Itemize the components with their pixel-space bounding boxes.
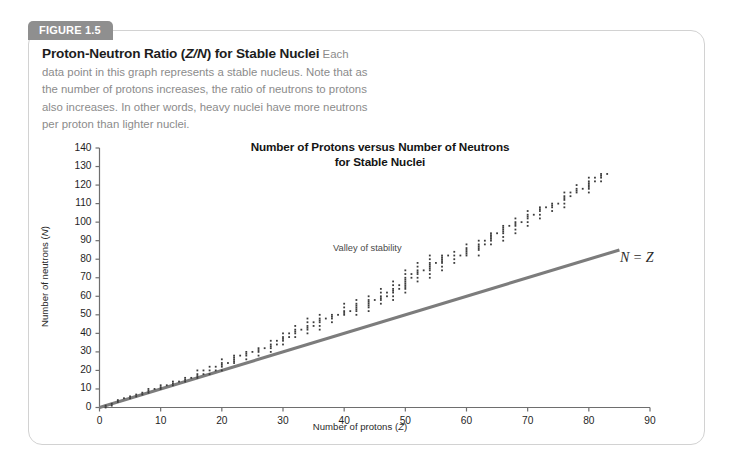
figure-number-tab: FIGURE 1.5 bbox=[28, 21, 113, 40]
caption-title-suffix: ) for Stable Nuclei bbox=[207, 46, 320, 61]
figure-number-label: FIGURE 1.5 bbox=[39, 24, 101, 36]
figure-caption: Proton-Neutron Ratio (Z/N) for Stable Nu… bbox=[42, 45, 372, 134]
caption-title-prefix: Proton-Neutron Ratio ( bbox=[42, 46, 185, 61]
figure-caption-title: Proton-Neutron Ratio (Z/N) for Stable Nu… bbox=[42, 46, 319, 61]
caption-title-symbol: Z/N bbox=[185, 46, 206, 61]
